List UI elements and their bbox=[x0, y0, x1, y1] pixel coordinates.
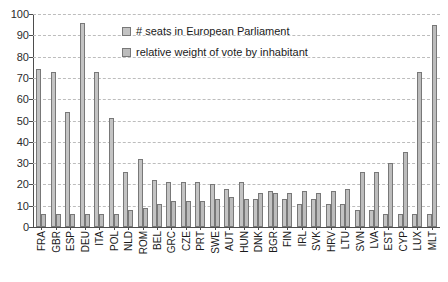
legend-label: # seats in European Parliament bbox=[136, 25, 289, 37]
x-tick-label: HUN bbox=[238, 231, 249, 253]
bar-chart: 0102030405060708090100 FRAGBRESPDEUITAPO… bbox=[0, 0, 448, 282]
x-label-cell: AUT bbox=[222, 229, 236, 281]
x-label-cell: EST bbox=[381, 229, 395, 281]
y-tick-label: 40 bbox=[0, 136, 29, 148]
bar bbox=[316, 193, 321, 227]
bar bbox=[331, 191, 336, 227]
x-tick-label: DEU bbox=[79, 231, 90, 252]
bar bbox=[171, 201, 176, 227]
x-tick-label: ESP bbox=[65, 231, 76, 251]
bar bbox=[345, 189, 350, 227]
x-tick-label: HRV bbox=[325, 231, 336, 252]
bar-group bbox=[77, 14, 91, 227]
x-label-cell: BGR bbox=[266, 229, 280, 281]
chart-legend: # seats in European Parliament relative … bbox=[122, 25, 308, 58]
x-tick-label: EST bbox=[383, 231, 394, 250]
x-tick-label: PRT bbox=[195, 231, 206, 251]
y-tick-label: 20 bbox=[0, 178, 29, 190]
bar bbox=[215, 199, 220, 227]
x-tick-mark bbox=[302, 227, 303, 230]
x-label-cell: HRV bbox=[323, 229, 337, 281]
bar bbox=[128, 210, 133, 227]
bar bbox=[302, 191, 307, 227]
x-label-cell: LUX bbox=[410, 229, 424, 281]
bar-group bbox=[323, 14, 337, 227]
x-tick-label: ITA bbox=[94, 231, 105, 246]
x-tick-label: AUT bbox=[224, 231, 235, 251]
x-label-cell: GRC bbox=[164, 229, 178, 281]
x-label-cell: LTU bbox=[338, 229, 352, 281]
x-label-cell: CZE bbox=[179, 229, 193, 281]
x-axis-labels: FRAGBRESPDEUITAPOLNLDROMBELGRCCZEPRTSWEA… bbox=[33, 229, 440, 281]
x-tick-label: BGR bbox=[267, 231, 278, 253]
x-tick-label: DNK bbox=[253, 231, 264, 252]
x-tick-label: CZE bbox=[180, 231, 191, 251]
x-tick-mark bbox=[171, 227, 172, 230]
y-tick-label: 30 bbox=[0, 157, 29, 169]
x-tick-mark bbox=[432, 227, 433, 230]
bar bbox=[114, 214, 119, 227]
bar-group bbox=[309, 14, 323, 227]
legend-label: relative weight of vote by inhabitant bbox=[136, 46, 308, 58]
x-label-cell: MLT bbox=[425, 229, 439, 281]
bar bbox=[229, 197, 234, 227]
x-label-cell: POL bbox=[106, 229, 120, 281]
x-tick-label: FRA bbox=[36, 231, 47, 251]
bar bbox=[432, 25, 437, 227]
x-tick-mark bbox=[331, 227, 332, 230]
x-tick-label: BEL bbox=[151, 231, 162, 250]
x-tick-mark bbox=[41, 227, 42, 230]
bar bbox=[388, 163, 393, 227]
bar-group bbox=[106, 14, 120, 227]
x-tick-mark bbox=[244, 227, 245, 230]
bar-group bbox=[338, 14, 352, 227]
bar-group bbox=[63, 14, 77, 227]
bar-group bbox=[381, 14, 395, 227]
x-tick-mark bbox=[56, 227, 57, 230]
x-label-cell: ESP bbox=[63, 229, 77, 281]
bar-group bbox=[367, 14, 381, 227]
x-tick-mark bbox=[114, 227, 115, 230]
legend-swatch-icon bbox=[122, 27, 131, 36]
bar-group bbox=[396, 14, 410, 227]
bar bbox=[143, 208, 148, 227]
x-tick-label: LVA bbox=[369, 231, 380, 248]
y-tick-label: 100 bbox=[0, 8, 29, 20]
x-tick-label: LUX bbox=[412, 231, 423, 250]
x-tick-mark bbox=[374, 227, 375, 230]
x-tick-mark bbox=[200, 227, 201, 230]
bar bbox=[273, 193, 278, 227]
x-tick-mark bbox=[388, 227, 389, 230]
bar bbox=[157, 204, 162, 227]
bar bbox=[200, 201, 205, 227]
x-tick-mark bbox=[417, 227, 418, 230]
legend-item-weight: relative weight of vote by inhabitant bbox=[122, 46, 308, 58]
y-tick-label: 80 bbox=[0, 51, 29, 63]
x-tick-label: GRC bbox=[166, 231, 177, 253]
x-label-cell: FIN bbox=[280, 229, 294, 281]
bar bbox=[51, 72, 56, 227]
x-label-cell: NLD bbox=[121, 229, 135, 281]
x-tick-label: IRL bbox=[296, 231, 307, 247]
x-tick-mark bbox=[128, 227, 129, 230]
y-tick-label: 90 bbox=[0, 29, 29, 41]
bar bbox=[287, 193, 292, 227]
y-tick-mark bbox=[29, 227, 33, 228]
bar bbox=[94, 72, 99, 227]
x-label-cell: ITA bbox=[92, 229, 106, 281]
x-tick-label: LTU bbox=[340, 231, 351, 249]
bar bbox=[65, 112, 70, 227]
x-label-cell: LVA bbox=[367, 229, 381, 281]
bar bbox=[244, 199, 249, 227]
bar-group bbox=[352, 14, 366, 227]
x-tick-mark bbox=[287, 227, 288, 230]
x-tick-mark bbox=[360, 227, 361, 230]
bar bbox=[99, 214, 104, 227]
y-tick-label: 10 bbox=[0, 200, 29, 212]
bar bbox=[70, 214, 75, 227]
x-label-cell: ROM bbox=[135, 229, 149, 281]
x-label-cell: PRT bbox=[193, 229, 207, 281]
x-tick-label: MLT bbox=[426, 231, 437, 250]
x-tick-mark bbox=[157, 227, 158, 230]
bar-group bbox=[92, 14, 106, 227]
